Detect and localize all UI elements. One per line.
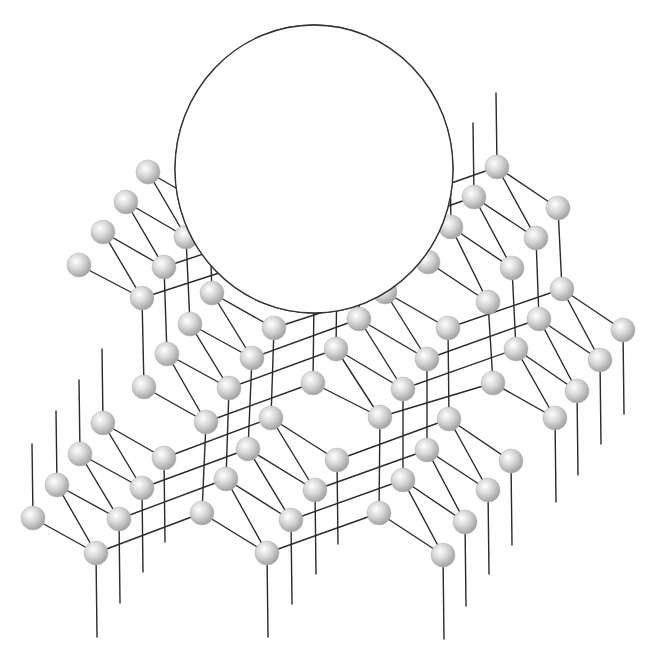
host-atom — [262, 316, 286, 340]
host-atom — [325, 448, 349, 472]
host-atom — [437, 407, 461, 431]
dangling-bond — [96, 553, 97, 637]
bond-line — [226, 479, 267, 553]
host-atom — [504, 337, 528, 361]
host-atom — [347, 307, 371, 331]
vertical-bond — [142, 298, 144, 387]
bond-line — [451, 227, 488, 302]
host-atom — [543, 406, 567, 430]
dangling-bond — [337, 460, 338, 544]
host-atom — [114, 190, 138, 214]
host-atom — [500, 256, 524, 280]
vertical-bond — [248, 358, 252, 449]
bond-line — [359, 319, 403, 389]
host-atom — [415, 347, 439, 371]
host-atom — [200, 281, 224, 305]
host-atom — [611, 318, 635, 342]
host-atom — [367, 501, 391, 525]
host-atom — [194, 410, 218, 434]
host-atom — [462, 185, 486, 209]
host-atom — [546, 196, 570, 220]
host-atom — [91, 220, 115, 244]
magnified-inset — [175, 25, 453, 313]
crystal-lattice-diagram — [0, 0, 656, 659]
bond-line — [403, 480, 443, 555]
host-atom — [476, 290, 500, 314]
host-atom — [236, 437, 260, 461]
host-atom — [68, 442, 92, 466]
host-atom — [368, 405, 392, 429]
host-atom — [255, 541, 279, 565]
host-atom — [45, 473, 69, 497]
host-atom — [524, 226, 548, 250]
host-atom — [527, 307, 551, 331]
dangling-bond — [600, 360, 601, 444]
host-atom — [107, 507, 131, 531]
vertical-bond — [186, 237, 190, 324]
host-atom — [324, 337, 348, 361]
dangling-bond — [443, 555, 444, 639]
host-atom — [550, 277, 574, 301]
host-atom — [565, 379, 589, 403]
host-atom — [303, 478, 327, 502]
host-atom — [415, 438, 439, 462]
dangling-bond — [511, 461, 512, 545]
host-atom — [130, 476, 154, 500]
host-atom — [217, 376, 241, 400]
host-atom — [240, 346, 264, 370]
host-atom — [136, 160, 160, 184]
host-atom — [436, 316, 460, 340]
host-atom — [453, 510, 477, 534]
host-atom — [132, 375, 156, 399]
host-atom — [155, 342, 179, 366]
host-atom — [152, 255, 176, 279]
dangling-bond — [555, 418, 556, 502]
dangling-bond — [142, 488, 143, 572]
host-atom — [21, 506, 45, 530]
host-atom — [301, 371, 325, 395]
host-atom — [476, 478, 500, 502]
dangling-bond — [267, 553, 268, 637]
host-atom — [178, 312, 202, 336]
host-atom — [499, 449, 523, 473]
dangling-bond — [164, 458, 165, 542]
dangling-bond — [315, 490, 316, 574]
dangling-bond — [119, 519, 120, 603]
vertical-bond — [379, 417, 380, 513]
bond-line — [248, 449, 291, 520]
dangling-bond — [623, 330, 624, 414]
vertical-bond — [202, 422, 206, 513]
bond-line — [271, 418, 315, 490]
host-atom — [588, 348, 612, 372]
host-atom — [152, 446, 176, 470]
host-atom — [67, 253, 91, 277]
dangling-bond — [465, 522, 466, 606]
host-atom — [391, 468, 415, 492]
dangling-bond — [488, 490, 489, 574]
host-atom — [279, 508, 303, 532]
host-atom — [481, 371, 505, 395]
host-atom — [214, 467, 238, 491]
host-atom — [190, 501, 214, 525]
host-atom — [391, 377, 415, 401]
host-atom — [130, 286, 154, 310]
vertical-bond — [164, 267, 167, 354]
dangling-bond — [577, 391, 578, 475]
host-atom — [259, 406, 283, 430]
dangling-bond — [291, 520, 292, 604]
inset-circle-border — [175, 25, 453, 313]
host-atom — [485, 155, 509, 179]
host-atom — [431, 543, 455, 567]
host-atom — [84, 541, 108, 565]
host-atom — [91, 411, 115, 435]
